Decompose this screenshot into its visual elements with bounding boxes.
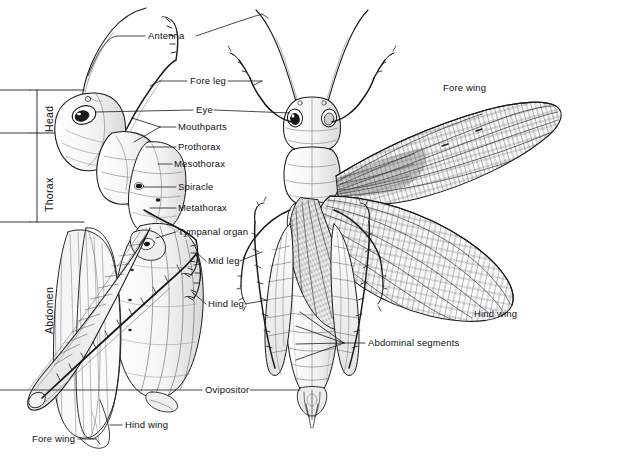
label-tympanal-organ: Tympanal organ [178, 226, 248, 237]
dorsal-view-drawing [228, 10, 575, 428]
label-spiracle: Spiracle [178, 181, 214, 192]
label-eye: Eye [196, 104, 213, 115]
label-prothorax: Prothorax [178, 141, 221, 152]
label-mid-leg: Mid leg [208, 255, 240, 266]
label-antenna: Antenna [148, 30, 184, 41]
label-mesothorax: Mesothorax [174, 158, 225, 169]
dorsal-fore-wing [330, 100, 575, 215]
label-hind-leg: Hind leg [208, 298, 244, 309]
anatomy-figure: Head Thorax Abdomen Antenna Fore leg Eye… [0, 0, 630, 471]
label-fore-wing-lateral: Fore wing [32, 433, 75, 444]
label-hind-wing-dorsal: Hind wing [474, 308, 517, 319]
region-label-thorax: Thorax [44, 178, 55, 212]
dorsal-ovipositor [297, 387, 327, 429]
label-mouthparts: Mouthparts [178, 121, 227, 132]
label-ovipositor: Ovipositor [205, 384, 249, 395]
lateral-view-drawing [26, 8, 204, 448]
label-fore-leg: Fore leg [190, 75, 226, 86]
region-stems [0, 90, 30, 222]
label-hind-wing-lateral: Hind wing [125, 419, 168, 430]
region-label-head: Head [44, 106, 55, 132]
label-abdominal-segments: Abdominal segments [368, 337, 459, 348]
label-fore-wing-dorsal: Fore wing [443, 82, 486, 93]
label-metathorax: Metathorax [178, 202, 227, 213]
grasshopper-illustration [0, 0, 630, 471]
region-label-abdomen: Abdomen [44, 287, 55, 334]
